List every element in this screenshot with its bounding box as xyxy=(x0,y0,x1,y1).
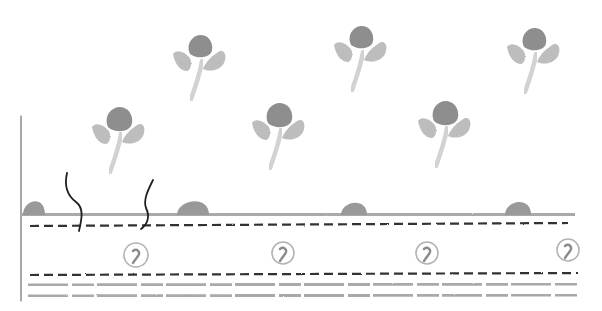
wavy-filament xyxy=(66,173,82,231)
flower-leaf-left xyxy=(418,118,436,138)
flower-head xyxy=(523,28,547,50)
embedded-ring-particles xyxy=(124,239,579,267)
flower-head xyxy=(107,107,133,131)
ring-curl xyxy=(424,248,430,261)
flower-icon xyxy=(92,107,144,172)
vertical-axis-line xyxy=(21,52,22,300)
ring-outline xyxy=(272,242,294,264)
bottom-hatched-lines xyxy=(28,284,578,296)
flower-icon xyxy=(418,101,470,166)
flower-leaf-left xyxy=(252,120,270,140)
bottom-line xyxy=(28,295,578,296)
flower-head xyxy=(189,35,213,57)
ring-particle-icon xyxy=(416,242,438,264)
flower-stem xyxy=(352,52,363,90)
ring-particle-icon xyxy=(272,242,294,264)
bottom-line xyxy=(28,284,578,285)
flower-icon xyxy=(173,35,225,99)
ring-outline xyxy=(124,243,148,267)
ring-outline xyxy=(416,242,438,264)
flower-stem xyxy=(436,128,447,166)
band-bottom-dashes xyxy=(30,273,578,275)
illustration-canvas xyxy=(0,0,602,311)
dashed-membrane-band xyxy=(30,223,578,275)
flower-leaf-left xyxy=(92,124,110,144)
surface-mound xyxy=(505,202,531,215)
ring-particle-icon xyxy=(124,243,148,267)
flower-head xyxy=(433,101,459,125)
flower-stem xyxy=(191,61,202,99)
flower-head xyxy=(267,103,293,127)
flower-icon xyxy=(252,103,304,168)
ring-curl xyxy=(565,245,571,258)
flower-leaf-left xyxy=(334,42,352,62)
surface-line xyxy=(22,214,575,215)
surface-mound xyxy=(177,201,209,215)
flower-stem xyxy=(110,134,121,172)
surface-mound xyxy=(341,203,367,215)
ring-curl xyxy=(280,248,286,261)
flower-leaf-left xyxy=(507,44,525,64)
wavy-filaments xyxy=(66,173,153,231)
wavy-filament xyxy=(141,180,153,229)
flower-icon xyxy=(334,26,386,90)
flower-head xyxy=(350,26,374,48)
flower-stem xyxy=(270,130,281,168)
flower-stem xyxy=(525,54,536,92)
cross-section-drawing xyxy=(0,0,602,311)
axis-segment xyxy=(21,117,22,300)
ring-particle-icon xyxy=(557,239,579,261)
band-top-dashes xyxy=(30,223,568,226)
ring-curl xyxy=(133,250,139,263)
surface-mound xyxy=(23,201,45,215)
floating-flowers xyxy=(92,26,559,172)
surface-stroke xyxy=(22,214,575,215)
flower-leaf-left xyxy=(173,51,191,71)
ring-outline xyxy=(557,239,579,261)
flower-icon xyxy=(507,28,559,92)
